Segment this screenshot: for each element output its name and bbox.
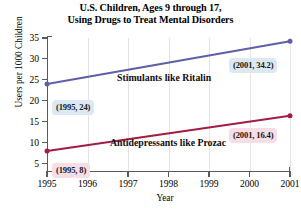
y-axis-tick-label: 5	[18, 158, 39, 169]
x-axis-tick-label: 1995	[25, 178, 69, 189]
series-label-stimulants: Stimulants like Ritalin	[117, 72, 211, 83]
x-axis-tick-label: 2000	[228, 178, 272, 189]
x-axis-tick	[127, 172, 128, 177]
chart-title: U.S. Children, Ages 9 through 17, Using …	[0, 2, 301, 26]
y-axis-tick	[42, 58, 47, 59]
y-axis-tick	[42, 37, 47, 38]
y-axis-tick-label: 10	[18, 137, 39, 148]
gridline-vertical	[290, 38, 291, 171]
annotation-stimulants-1995: (1995, 24)	[52, 100, 94, 115]
y-axis-tick-label: 15	[18, 116, 39, 127]
series-label-antidepressants: Antidepressants like Prozac	[110, 137, 226, 148]
x-axis-tick	[249, 172, 250, 177]
y-axis-tick-label: 25	[18, 74, 39, 85]
x-axis-tick-label: 1996	[66, 178, 110, 189]
x-axis-tick-label: 1999	[187, 178, 231, 189]
y-axis-tick-label: 35	[18, 32, 39, 43]
chart-title-line-2: Using Drugs to Treat Mental Disorders	[0, 14, 301, 26]
y-axis-tick	[42, 79, 47, 80]
gridline-vertical	[128, 38, 129, 171]
y-axis-tick	[42, 121, 47, 122]
y-axis-top-cap	[47, 36, 52, 37]
y-axis-tick-label: 30	[18, 53, 39, 64]
x-axis-title: Year	[40, 193, 290, 203]
x-axis-tick-label: 1997	[106, 178, 150, 189]
y-axis-tick-label: 20	[18, 95, 39, 106]
x-axis-tick-label: 1998	[147, 178, 191, 189]
y-axis-line	[47, 36, 48, 173]
x-axis-tick	[168, 172, 169, 177]
y-axis-title: Users per 1000 Children	[14, 0, 24, 132]
x-axis-tick-label: 2001	[268, 178, 301, 189]
y-axis-tick	[42, 163, 47, 164]
x-axis-tick	[208, 172, 209, 177]
annotation-antidepressants-2001: (2001, 16.4)	[229, 128, 277, 143]
annotation-antidepressants-1995: (1995, 8)	[52, 163, 90, 178]
x-axis-tick	[46, 172, 47, 177]
y-axis-tick	[42, 142, 47, 143]
x-axis-tick	[289, 172, 290, 177]
annotation-stimulants-2001: (2001, 34.2)	[229, 58, 277, 73]
chart-title-line-1: U.S. Children, Ages 9 through 17,	[0, 2, 301, 14]
y-axis-tick	[42, 100, 47, 101]
gridline-vertical	[209, 38, 210, 171]
gridline-vertical	[169, 38, 170, 171]
chart-container: U.S. Children, Ages 9 through 17, Using …	[0, 0, 301, 214]
